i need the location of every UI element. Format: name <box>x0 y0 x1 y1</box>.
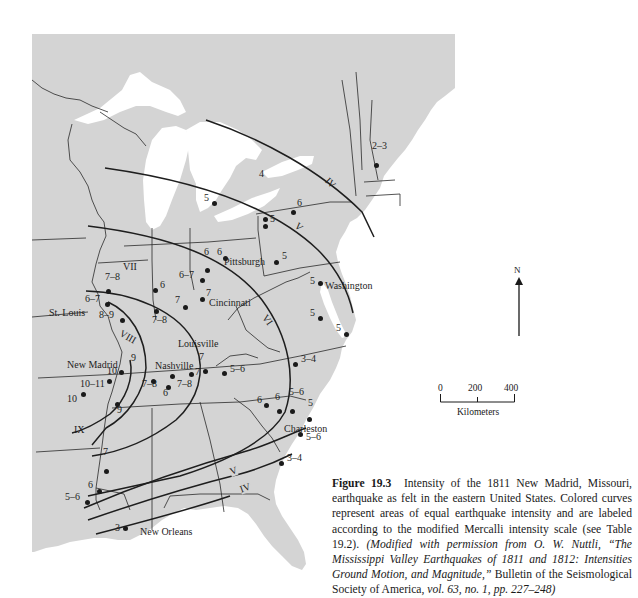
intensity-point-marker <box>97 489 102 494</box>
intensity-point-marker <box>200 278 205 283</box>
intensity-value-label: 6 <box>275 392 280 402</box>
intensity-value-label: 10–11 <box>80 379 105 389</box>
intensity-value-label: 5 <box>308 398 313 408</box>
intensity-point-marker <box>85 500 90 505</box>
intensity-point-marker <box>291 210 296 215</box>
intensity-point-marker <box>263 224 268 229</box>
intensity-value-label: 7 <box>103 447 108 457</box>
intensity-value-label: 3–4 <box>301 354 316 364</box>
intensity-value-label: 6–7 <box>179 270 194 280</box>
intensity-point-marker <box>318 281 323 286</box>
intensity-value-label: 5 <box>270 214 275 224</box>
intensity-value-label: 6 <box>257 395 262 405</box>
intensity-point-marker <box>203 369 208 374</box>
scale-unit: Kilometers <box>457 407 499 417</box>
intensity-point-marker <box>183 305 188 310</box>
intensity-value-label: 7–8 <box>177 379 192 389</box>
intensity-point-marker <box>298 432 303 437</box>
intensity-value-label: 5 <box>282 251 287 261</box>
figure-caption: Figure 19.3 Intensity of the 1811 New Ma… <box>332 476 632 598</box>
intensity-point-marker <box>81 392 86 397</box>
intensity-value-label: 5–6 <box>306 432 321 442</box>
intensity-point-marker <box>264 403 269 408</box>
intensity-value-label: 6 <box>88 480 93 490</box>
intensity-point-marker <box>277 409 282 414</box>
intensity-point-marker <box>223 256 228 261</box>
city-label-new-orleans: New Orleans <box>140 527 192 537</box>
intensity-point-marker <box>290 409 295 414</box>
intensity-point-marker <box>274 260 279 265</box>
figure-number: Figure 19.3 <box>332 477 391 490</box>
intensity-point-marker <box>123 526 128 531</box>
intensity-point-marker <box>212 201 217 206</box>
scale-tick-0: 0 <box>438 383 443 393</box>
intensity-value-label: 9 <box>131 353 136 363</box>
city-label-cincinnati: Cincinnati <box>209 298 251 308</box>
intensity-value-label: 7–8 <box>105 272 120 282</box>
intensity-point-marker <box>120 318 125 323</box>
isoseismal-label-vii: VII <box>123 262 137 272</box>
intensity-value-label: 7–8 <box>152 315 167 325</box>
caption-volume: vol. 63, no. 1, pp. 227–248) <box>427 583 555 596</box>
intensity-point-marker <box>170 374 175 379</box>
isoseismal-label-ix: IX <box>74 425 85 435</box>
intensity-point-marker <box>119 370 124 375</box>
intensity-point-marker <box>104 469 109 474</box>
intensity-value-label: 6 <box>297 198 302 208</box>
intensity-value-label: 7–8 <box>142 379 157 389</box>
intensity-value-label: 7 <box>175 295 180 305</box>
intensity-point-marker <box>279 461 284 466</box>
intensity-point-marker <box>307 417 312 422</box>
city-label-louisville: Louisville <box>178 339 219 349</box>
scale-bar-line <box>440 394 530 406</box>
intensity-point-marker <box>293 362 298 367</box>
city-label-pittsburgh: Pittsburgh <box>224 257 265 267</box>
intensity-point-marker <box>153 288 158 293</box>
intensity-value-label: 9 <box>117 405 122 415</box>
city-label-nashville: Nashville <box>155 361 193 371</box>
intensity-value-label: 8–9 <box>99 310 114 320</box>
city-label-washington: Washington <box>325 281 373 291</box>
north-label: N <box>514 265 521 275</box>
intensity-point-marker <box>374 163 379 168</box>
intensity-value-label: 7 <box>206 288 211 298</box>
intensity-point-marker <box>189 372 194 377</box>
intensity-value-label: 3–4 <box>287 453 302 463</box>
intensity-value-label: 5 <box>204 193 209 203</box>
intensity-point-marker <box>106 289 111 294</box>
intensity-value-label: 6 <box>163 388 168 398</box>
scale-bar: 0 200 400 Kilometers <box>440 383 530 423</box>
intensity-value-label: 7 <box>199 352 204 362</box>
intensity-value-label: 10 <box>107 366 117 376</box>
intensity-point-marker <box>107 379 112 384</box>
intensity-value-label: 5 <box>310 276 315 286</box>
intensity-value-label: 6 <box>204 247 209 257</box>
intensity-point-marker <box>318 316 323 321</box>
intensity-value-label: 5–6 <box>65 492 80 502</box>
intensity-value-label: 5–6 <box>289 387 304 397</box>
intensity-value-label: 5 <box>310 308 315 318</box>
intensity-value-label: 5–6 <box>230 364 245 374</box>
arrow-up-icon <box>512 276 526 346</box>
city-label-st-louis: St. Louis <box>49 308 85 318</box>
intensity-point-marker <box>263 217 268 222</box>
intensity-point-marker <box>222 371 227 376</box>
intensity-value-label: 2–3 <box>372 141 387 151</box>
intensity-value-label: 10 <box>67 394 77 404</box>
intensity-point-marker <box>200 297 205 302</box>
scale-tick-200: 200 <box>468 383 482 393</box>
intensity-value-label: 6 <box>160 280 165 290</box>
intensity-value-label: 7 <box>195 367 200 377</box>
intensity-value-label: 6–7 <box>85 294 100 304</box>
intensity-value-label: 5 <box>336 323 341 333</box>
scale-tick-400: 400 <box>504 383 518 393</box>
north-arrow: N <box>512 268 526 338</box>
intensity-point-marker <box>154 309 159 314</box>
intensity-point-marker <box>205 268 210 273</box>
intensity-value-label: 4 <box>259 169 264 179</box>
intensity-point-marker <box>344 332 349 337</box>
intensity-point-marker <box>105 302 110 307</box>
intensity-value-label: 3 <box>115 523 120 533</box>
intensity-value-label: 6 <box>217 247 222 257</box>
